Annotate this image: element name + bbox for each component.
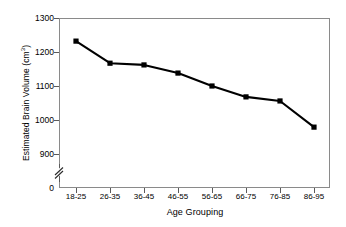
y-tick-label-900: 900 [14,150,54,159]
y-axis-break-icon [52,164,68,182]
y-axis-title-text: Estimated Brain Volume (cm [21,51,31,161]
plot-area [59,18,330,188]
y-tick-label-1100: 1100 [14,82,54,91]
y-tick-label-1200: 1200 [14,48,54,57]
x-tick-label-86-95: 86-95 [291,192,337,201]
y-tick-label-1000: 1000 [14,116,54,125]
y-tick-label-1300: 1300 [14,14,54,23]
y-axis-title: Estimated Brain Volume (cm3) [18,18,34,188]
y-tick-label-0: 0 [14,184,54,193]
brain-volume-line-chart: Estimated Brain Volume (cm3) 1300 1200 1… [0,0,346,227]
x-axis-title: Age Grouping [59,207,331,217]
